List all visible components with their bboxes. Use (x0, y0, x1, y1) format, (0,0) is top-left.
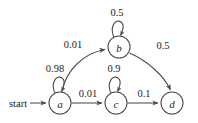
edge-label-self-loop-b: 0.5 (110, 7, 123, 18)
edge-label-self-loop-a: 0.98 (46, 63, 64, 74)
edge-label-a-to-c: 0.01 (79, 88, 97, 99)
node-d[interactable]: d (161, 92, 183, 114)
node-c[interactable]: c (105, 92, 127, 114)
state-diagram-canvas: a b c d start 0.98 0.5 0.9 0.01 0.01 0.5… (0, 0, 198, 123)
edge-b-to-d (130, 53, 171, 90)
node-d-label: d (169, 98, 175, 110)
self-loop-c (109, 77, 120, 93)
node-b[interactable]: b (108, 36, 130, 58)
edge-label-c-to-d: 0.1 (137, 88, 150, 99)
state-diagram: a b c d start 0.98 0.5 0.9 0.01 0.01 0.5… (0, 0, 198, 123)
node-b-label: b (116, 42, 122, 54)
node-a[interactable]: a (49, 92, 71, 114)
start-label: start (9, 98, 27, 109)
self-loop-b (112, 21, 123, 37)
edge-label-a-to-b: 0.01 (64, 39, 82, 50)
node-a-label: a (57, 98, 63, 110)
node-c-label: c (114, 98, 119, 110)
edge-label-b-to-d: 0.5 (156, 40, 169, 51)
edge-label-self-loop-c: 0.9 (107, 63, 120, 74)
edge-a-to-b (62, 50, 105, 92)
